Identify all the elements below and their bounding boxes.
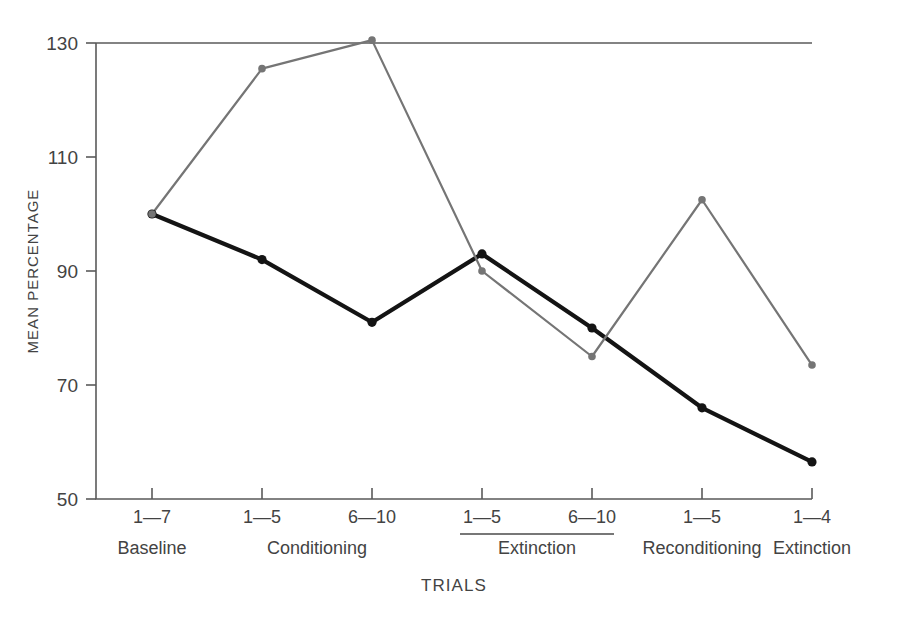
phase-group-label-2: Extinction bbox=[498, 538, 576, 558]
x-axis-ticks: 1—71—56—101—56—101—51—4 bbox=[133, 488, 831, 527]
x-tick-label: 6—10 bbox=[348, 507, 396, 527]
data-point-gray-series-6 bbox=[808, 361, 816, 369]
y-axis-title: MEAN PERCENTAGE bbox=[24, 189, 41, 354]
data-point-black-series-6 bbox=[807, 457, 816, 466]
line-chart: 507090110130 1—71—56—101—56—101—51—4 Bas… bbox=[0, 0, 915, 617]
chart-labels-layer: BaselineConditioningExtinctionReconditio… bbox=[24, 189, 851, 595]
data-series-layer bbox=[147, 36, 816, 466]
data-point-black-series-3 bbox=[477, 249, 486, 258]
phase-group-label-0: Baseline bbox=[117, 538, 186, 558]
x-tick-label: 1—4 bbox=[793, 507, 831, 527]
x-axis-title: TRIALS bbox=[421, 576, 487, 595]
y-axis-ticks: 507090110130 bbox=[46, 33, 96, 510]
data-point-gray-series-2 bbox=[368, 36, 376, 44]
x-tick-label: 1—5 bbox=[683, 507, 721, 527]
x-tick-label: 1—7 bbox=[133, 507, 171, 527]
phase-group-label-3: Reconditioning bbox=[642, 538, 761, 558]
data-point-gray-series-0 bbox=[148, 210, 156, 218]
y-tick-label: 50 bbox=[57, 489, 78, 510]
y-tick-label: 70 bbox=[57, 375, 78, 396]
y-tick-label: 130 bbox=[46, 33, 78, 54]
x-tick-label: 1—5 bbox=[463, 507, 501, 527]
x-tick-label: 1—5 bbox=[243, 507, 281, 527]
series-line-gray-series bbox=[152, 40, 812, 365]
phase-group-label-4: Extinction bbox=[773, 538, 851, 558]
data-point-gray-series-4 bbox=[588, 353, 596, 361]
chart-container: 507090110130 1—71—56—101—56—101—51—4 Bas… bbox=[0, 0, 915, 617]
x-tick-label: 6—10 bbox=[568, 507, 616, 527]
data-point-black-series-2 bbox=[367, 318, 376, 327]
data-point-gray-series-3 bbox=[478, 267, 486, 275]
data-point-black-series-4 bbox=[587, 323, 596, 332]
phase-group-label-1: Conditioning bbox=[267, 538, 367, 558]
y-tick-label: 90 bbox=[57, 261, 78, 282]
data-point-black-series-1 bbox=[257, 255, 266, 264]
data-point-gray-series-5 bbox=[698, 196, 706, 204]
data-point-gray-series-1 bbox=[258, 65, 266, 73]
data-point-black-series-5 bbox=[697, 403, 706, 412]
y-tick-label: 110 bbox=[48, 147, 78, 168]
